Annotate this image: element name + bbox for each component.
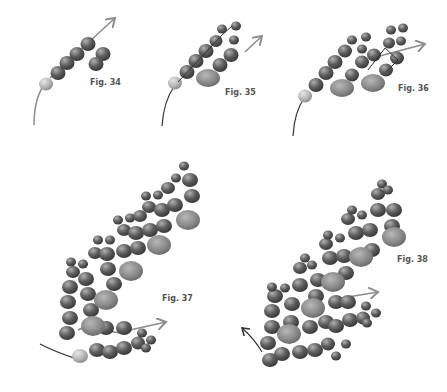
figure-36-label: Fig. 36 xyxy=(398,84,429,93)
figure-37-beads xyxy=(40,162,200,364)
figure-35-beads xyxy=(162,22,262,127)
figure-36-beads xyxy=(293,24,425,137)
figure-37-label: Fig. 37 xyxy=(162,294,193,303)
figure-34-beads xyxy=(34,18,115,125)
figure-34-label: Fig. 34 xyxy=(90,78,121,87)
figure-38-label: Fig. 38 xyxy=(397,255,428,264)
beading-diagram xyxy=(0,0,447,392)
figure-35-label: Fig. 35 xyxy=(225,88,256,97)
figure-38-beads xyxy=(242,180,406,368)
